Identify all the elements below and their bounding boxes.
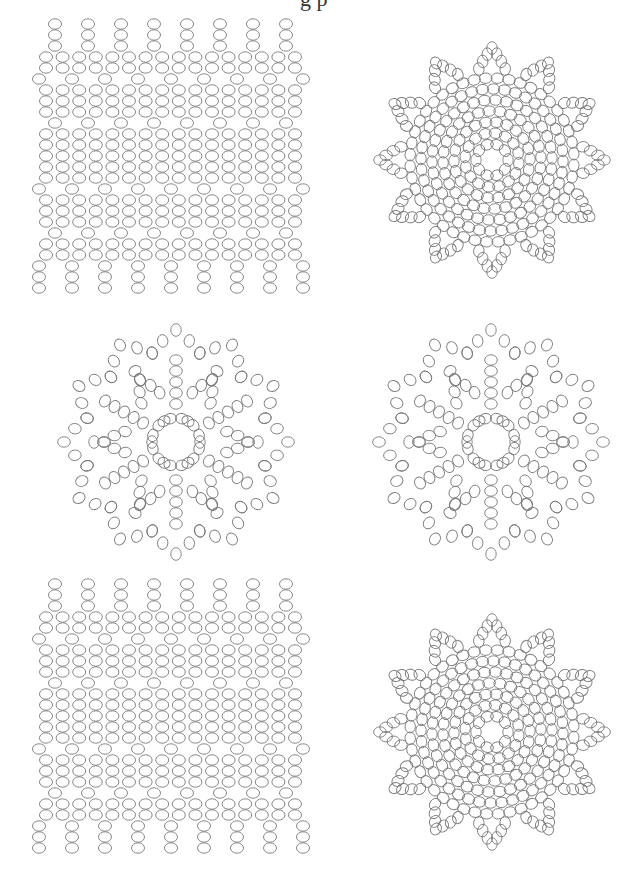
bead bbox=[123, 173, 136, 183]
bead bbox=[280, 601, 293, 611]
bead bbox=[255, 107, 268, 117]
bead bbox=[193, 346, 206, 361]
bead bbox=[171, 548, 181, 561]
bead bbox=[509, 752, 525, 768]
bead bbox=[206, 129, 219, 139]
bead bbox=[524, 752, 540, 768]
bead bbox=[181, 30, 194, 40]
bead bbox=[445, 340, 459, 356]
bead bbox=[189, 250, 202, 260]
bead bbox=[451, 639, 465, 655]
bead bbox=[123, 63, 136, 73]
bead bbox=[220, 404, 235, 420]
bead bbox=[272, 667, 285, 677]
bead bbox=[206, 711, 219, 721]
bead bbox=[73, 206, 86, 216]
bead bbox=[239, 645, 252, 655]
bead bbox=[557, 191, 572, 207]
bead bbox=[146, 523, 159, 538]
bead bbox=[247, 41, 260, 51]
bead bbox=[189, 63, 202, 73]
bead bbox=[222, 766, 235, 776]
bead bbox=[257, 459, 272, 472]
bead bbox=[106, 766, 119, 776]
bead bbox=[556, 684, 571, 700]
bead bbox=[206, 63, 219, 73]
bead bbox=[66, 821, 79, 831]
bead bbox=[172, 711, 185, 721]
bead bbox=[492, 808, 505, 819]
bead bbox=[508, 123, 524, 139]
bead bbox=[189, 623, 202, 633]
bead bbox=[517, 760, 533, 776]
bead bbox=[73, 217, 86, 227]
bead bbox=[139, 766, 152, 776]
bead bbox=[89, 63, 102, 73]
bead bbox=[222, 667, 235, 677]
bead bbox=[40, 63, 53, 73]
bead bbox=[40, 96, 53, 106]
bead bbox=[554, 393, 569, 409]
bead bbox=[82, 678, 95, 688]
bead bbox=[272, 656, 285, 666]
bead bbox=[472, 334, 484, 348]
bead bbox=[132, 283, 145, 293]
bead bbox=[280, 118, 293, 128]
bead bbox=[33, 272, 46, 282]
bead bbox=[239, 393, 254, 409]
bead bbox=[123, 700, 136, 710]
bead bbox=[418, 675, 434, 691]
bead bbox=[139, 667, 152, 677]
bead bbox=[214, 788, 227, 798]
bead bbox=[74, 474, 90, 488]
bead bbox=[247, 30, 260, 40]
bead bbox=[222, 140, 235, 150]
bead bbox=[123, 810, 136, 820]
bead bbox=[272, 711, 285, 721]
bead bbox=[156, 250, 169, 260]
bead bbox=[255, 733, 268, 743]
bead bbox=[172, 623, 185, 633]
bead bbox=[89, 755, 102, 765]
bead bbox=[526, 409, 541, 425]
bead bbox=[458, 696, 474, 712]
bead bbox=[123, 623, 136, 633]
bead bbox=[206, 96, 219, 106]
bead bbox=[214, 678, 227, 688]
bead bbox=[412, 393, 427, 409]
bead bbox=[40, 722, 53, 732]
bead bbox=[106, 689, 119, 699]
bead bbox=[289, 755, 302, 765]
bead bbox=[485, 377, 498, 387]
bead bbox=[156, 711, 169, 721]
bead bbox=[524, 505, 540, 520]
bead bbox=[40, 206, 53, 216]
bead bbox=[172, 667, 185, 677]
bead bbox=[257, 459, 272, 472]
bead bbox=[222, 689, 235, 699]
bead bbox=[172, 52, 185, 62]
bead bbox=[255, 96, 268, 106]
bead bbox=[479, 645, 492, 656]
bead bbox=[445, 797, 461, 812]
bead bbox=[239, 700, 252, 710]
bead bbox=[156, 667, 169, 677]
bead bbox=[542, 782, 558, 798]
bead bbox=[541, 796, 557, 812]
bead bbox=[56, 656, 69, 666]
bead bbox=[289, 85, 302, 95]
bead bbox=[189, 52, 202, 62]
bead bbox=[523, 652, 539, 667]
page-title-fragment: g p bbox=[300, 0, 328, 12]
bead bbox=[373, 437, 386, 447]
bead bbox=[231, 74, 244, 84]
bead bbox=[578, 676, 594, 691]
bead bbox=[387, 668, 403, 683]
bead bbox=[421, 353, 437, 369]
bead bbox=[165, 634, 178, 644]
bead bbox=[206, 239, 219, 249]
bead bbox=[82, 590, 95, 600]
bead bbox=[220, 464, 235, 480]
bead bbox=[214, 228, 227, 238]
bead bbox=[289, 733, 302, 743]
